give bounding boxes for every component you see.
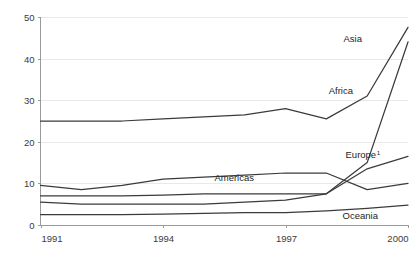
- y-tick-label: 20: [24, 137, 35, 148]
- series-label-africa: Africa: [329, 85, 354, 96]
- x-tick-label: 1997: [276, 233, 297, 244]
- y-tick-label: 40: [24, 54, 35, 65]
- series-labels: AsiaAfricaEurope1AmericasOceania: [214, 33, 380, 221]
- x-tick-label: 1991: [42, 233, 63, 244]
- x-axis-ticks: 1991199419972000: [42, 225, 409, 244]
- series-label-oceania: Oceania: [343, 210, 379, 221]
- chart-canvas: 01020304050 1991199419972000 AsiaAfricaE…: [0, 0, 418, 253]
- y-tick-label: 30: [24, 95, 35, 106]
- line-chart: 01020304050 1991199419972000 AsiaAfricaE…: [0, 0, 418, 253]
- series-label-superscript: 1: [377, 150, 381, 156]
- y-tick-label: 10: [24, 178, 35, 189]
- series-label-americas: Americas: [214, 172, 254, 183]
- y-tick-label: 50: [24, 12, 35, 23]
- series-lines: [41, 27, 409, 214]
- series-label-asia: Asia: [344, 33, 363, 44]
- y-tick-label: 0: [29, 220, 34, 231]
- x-tick-label: 1994: [153, 233, 174, 244]
- x-tick-label: 2000: [387, 233, 408, 244]
- series-label-europe: Europe1: [346, 149, 381, 160]
- y-axis-ticks: 01020304050: [24, 12, 41, 231]
